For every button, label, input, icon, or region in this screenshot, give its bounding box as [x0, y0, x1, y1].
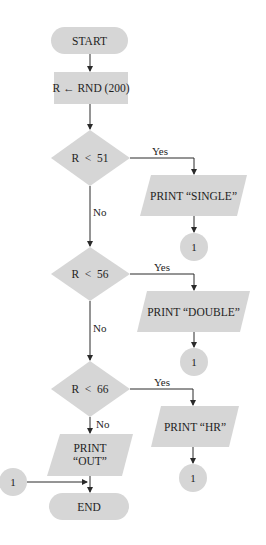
output-out: PRINT “OUT” — [47, 434, 133, 476]
end-terminal: END — [49, 493, 129, 520]
start-terminal: START — [51, 27, 128, 54]
decision-1-no-label: No — [93, 206, 107, 218]
decision-1: R < 51 — [51, 130, 130, 186]
output-out-line2: “OUT” — [73, 455, 107, 467]
connector-3: 1 — [179, 464, 207, 492]
decision-3-no-label: No — [96, 418, 110, 430]
arrow-decision-1-yes — [130, 158, 194, 174]
connector-2-label: 1 — [191, 356, 197, 368]
decision-2: R < 56 — [51, 247, 130, 301]
output-out-line1: PRINT — [73, 442, 106, 454]
assign-label: R ← RND (200) — [53, 82, 130, 95]
output-double: PRINT “DOUBLE” — [137, 291, 250, 332]
connector-2: 1 — [180, 348, 208, 376]
decision-2-label: R < 56 — [71, 268, 108, 280]
assign-process: R ← RND (200) — [53, 72, 130, 104]
flowchart-canvas: START R ← RND (200) R < 51 Yes No PRINT … — [0, 0, 266, 545]
output-hr: PRINT “HR” — [151, 406, 239, 447]
connector-3-label: 1 — [190, 472, 196, 484]
output-double-label: PRINT “DOUBLE” — [147, 306, 240, 318]
decision-2-no-label: No — [93, 322, 107, 334]
end-label: END — [77, 501, 101, 513]
output-single: PRINT “SINGLE” — [140, 175, 247, 216]
output-single-label: PRINT “SINGLE” — [150, 190, 237, 202]
decision-1-yes-label: Yes — [152, 145, 168, 157]
arrow-decision-2-yes — [130, 274, 194, 290]
start-label: START — [72, 35, 107, 47]
decision-3-yes-label: Yes — [154, 376, 170, 388]
decision-1-label: R < 51 — [71, 152, 108, 164]
entry-connector: 1 — [0, 468, 27, 496]
decision-3-label: R < 66 — [71, 383, 108, 395]
decision-3: R < 66 — [51, 361, 130, 417]
decision-2-yes-label: Yes — [154, 261, 170, 273]
entry-connector-label: 1 — [10, 476, 16, 488]
connector-1: 1 — [180, 233, 208, 261]
arrow-decision-3-yes — [130, 389, 193, 405]
output-hr-label: PRINT “HR” — [164, 421, 226, 433]
connector-1-label: 1 — [191, 241, 197, 253]
